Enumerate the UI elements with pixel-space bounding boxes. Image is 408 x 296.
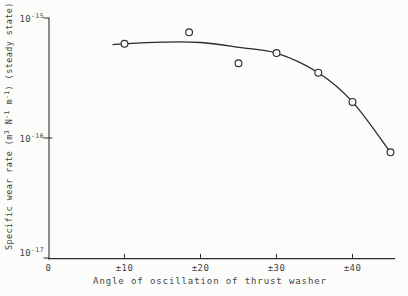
- data-point-markers: [121, 29, 394, 156]
- x-tick-label-40: ±40: [344, 263, 361, 273]
- x-tick-label-30: ±30: [268, 263, 285, 273]
- scanned-wear-rate-figure: 10-15 10-16 10-17 0 ±10 ±20 ±30 ±40 Angl…: [0, 0, 408, 296]
- data-point-marker: [186, 29, 193, 36]
- data-point-marker: [235, 60, 242, 67]
- y-tick-label-1e-17: 10-17: [19, 246, 44, 258]
- y-axis-title: Specific wear rate (m3 N-1 m-1) (steady …: [3, 2, 14, 250]
- y-tick-label-1e-16: 10-16: [19, 132, 44, 144]
- x-tick-label-20: ±20: [192, 263, 209, 273]
- data-point-marker: [315, 69, 322, 76]
- data-point-marker: [349, 99, 356, 106]
- x-tick-label-10: ±10: [116, 263, 133, 273]
- wear-rate-chart: 10-15 10-16 10-17 0 ±10 ±20 ±30 ±40 Angl…: [0, 0, 408, 296]
- fitted-curve: [113, 42, 390, 152]
- data-point-marker: [273, 50, 280, 57]
- y-tick-label-1e-15: 10-15: [19, 12, 44, 24]
- x-axis-title: Angle of oscillation of thrust washer: [93, 276, 327, 286]
- x-tick-label-0: 0: [46, 263, 52, 273]
- data-point-marker: [121, 40, 128, 47]
- data-point-marker: [387, 149, 394, 156]
